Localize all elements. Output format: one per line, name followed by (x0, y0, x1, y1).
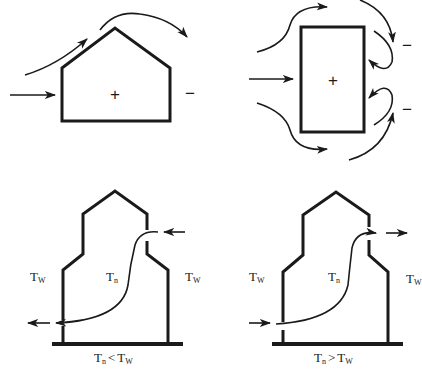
building-outline-main (63, 191, 147, 320)
condition-caption: Tn<TW (94, 350, 133, 366)
airflow-bottom-arrow-icon (257, 103, 327, 149)
leeward-pressure-sign: − (185, 84, 195, 103)
panel-wind-pitched-roof: + − (10, 13, 195, 121)
leeward-pressure-sign-upper: − (402, 36, 412, 55)
house-outline (62, 28, 170, 121)
outside-temp-left-label: TW (249, 269, 265, 285)
outside-temp-right-label: TW (406, 271, 422, 287)
building-outline-right (147, 241, 168, 343)
building-outline-main (283, 192, 369, 322)
building-outline-right (369, 240, 388, 343)
inside-temp-label: Tn (328, 269, 340, 285)
condition-caption: Tn>TW (314, 350, 353, 366)
airflow-bottom-right-arrow-icon (349, 113, 393, 160)
outside-temp-left-label: TW (30, 269, 46, 285)
internal-airflow-arrow-icon (276, 233, 376, 324)
panel-stack-effect-warm-inside: TW Tn TW Tn>TW (249, 192, 422, 366)
leeward-pressure-sign-lower: − (402, 100, 412, 119)
airflow-leeward-arrow-icon (100, 13, 187, 37)
vortex-upper-arrow-icon (369, 31, 392, 69)
ventilation-diagram: + − + − − TW Tn TW Tn<TW (0, 0, 422, 371)
vortex-lower-arrow-icon (369, 88, 392, 125)
inside-temp-label: Tn (106, 269, 118, 285)
panel-stack-effect-cold-inside: TW Tn TW Tn<TW (28, 191, 201, 366)
panel-wind-plan-view: + − − (249, 0, 412, 160)
inside-pressure-sign: + (328, 71, 338, 90)
outside-temp-right-label: TW (185, 269, 201, 285)
airflow-top-arrow-icon (257, 7, 327, 52)
inside-pressure-sign: + (110, 85, 120, 104)
